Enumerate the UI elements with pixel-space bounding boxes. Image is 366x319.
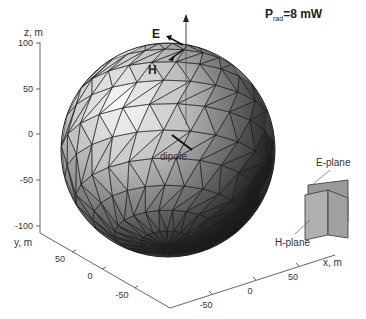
- plane-indicator: E-plane H-plane: [275, 157, 351, 248]
- radiation-sphere: [61, 43, 275, 257]
- z-tick-label: 50: [23, 84, 33, 94]
- svg-text:Prad=8 mW: Prad=8 mW: [265, 7, 323, 22]
- z-tick-label: 0: [28, 129, 33, 139]
- e-plane-label: E-plane: [316, 157, 351, 168]
- e-vector-label: E: [152, 27, 160, 41]
- x-tick-label: 50: [288, 272, 298, 282]
- dipole-label: dipole: [160, 151, 187, 162]
- z-axis-label: z, m: [24, 27, 43, 38]
- x-axis: -50050 x, m: [170, 255, 342, 310]
- y-axis-label: y, m: [14, 237, 32, 248]
- h-plane-shape-right: [328, 190, 348, 238]
- h-plane-label: H-plane: [275, 237, 310, 248]
- x-tick-label: -50: [199, 300, 212, 310]
- x-axis-label: x, m: [323, 257, 342, 268]
- power-title: Prad=8 mW: [265, 7, 323, 22]
- y-tick-label: 50: [55, 254, 65, 264]
- y-tick-label: 0: [87, 271, 92, 281]
- h-vector-label: H: [148, 63, 157, 77]
- x-tick-label: 0: [247, 286, 252, 296]
- figure-canvas: 100500-50-100 z, m 500-50 y, m -50050 x,…: [0, 0, 366, 319]
- e-vector: E: [152, 27, 183, 45]
- z-tick-label: -100: [15, 221, 33, 231]
- z-tick-label: 100: [18, 38, 33, 48]
- y-tick-label: -50: [115, 290, 128, 300]
- z-tick-label: -50: [20, 175, 33, 185]
- z-axis: 100500-50-100 z, m: [15, 27, 43, 233]
- h-plane-shape-left: [305, 190, 328, 240]
